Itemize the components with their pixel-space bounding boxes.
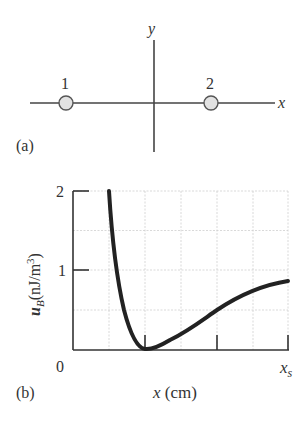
x-axis-title: x (cm) bbox=[152, 383, 197, 402]
y-axis-title: uB(nJ/m3) bbox=[24, 253, 46, 316]
particle-2-label: 2 bbox=[206, 75, 214, 92]
particle-1-circle bbox=[59, 96, 73, 110]
figure-canvas: x y 1 2 (a) bbox=[0, 0, 305, 422]
panel-a-label: (a) bbox=[16, 137, 34, 155]
x-origin-label: 0 bbox=[56, 358, 64, 375]
figure-a: x y 1 2 (a) bbox=[16, 20, 285, 155]
particle-1-label: 1 bbox=[61, 75, 69, 92]
y-tick-1: 1 bbox=[58, 262, 66, 279]
y-tick-2: 2 bbox=[56, 183, 64, 200]
x-end-label: xs bbox=[279, 358, 293, 380]
axis-ticks bbox=[73, 191, 288, 350]
x-axis-label: x bbox=[277, 94, 285, 111]
particle-2-circle bbox=[204, 96, 218, 110]
grid-lines bbox=[73, 191, 288, 350]
panel-b-label: (b) bbox=[16, 384, 35, 402]
figure-b: 2 1 0 xs uB(nJ/m3) x (cm) (b) bbox=[16, 183, 293, 402]
y-axis-label: y bbox=[146, 20, 156, 38]
energy-density-curve bbox=[109, 191, 288, 349]
